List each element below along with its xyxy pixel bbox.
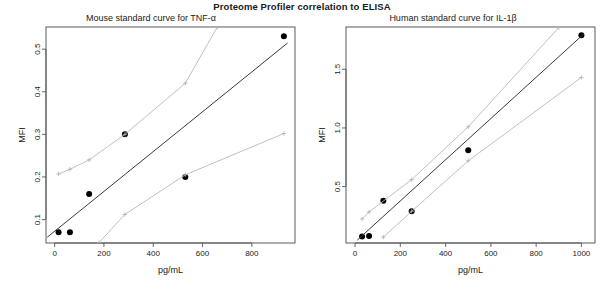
x-tick-label: 0 [353,249,358,258]
series-line-regression-fit [47,43,287,237]
data-point [67,229,73,235]
data-point [465,147,471,153]
y-axis-title: MFI [317,127,327,143]
figure-container: Proteome Profiler correlation to ELISA M… [0,0,604,293]
panel-human-il-1beta: Human standard curve for IL-1β 020040060… [302,0,604,293]
x-axis-title: pg/mL [458,265,483,275]
panel-mouse-tnf-alpha: Mouse standard curve for TNF-α 020040060… [0,0,302,293]
x-tick-label: 200 [394,249,408,258]
y-tick-label: 0.1 [34,213,43,225]
data-point [86,191,92,197]
x-tick-label: 0 [52,249,57,258]
y-tick-label: 0.5 [34,43,43,55]
plot-frame [46,27,295,243]
x-tick-label: 800 [245,249,259,258]
x-tick-label: 600 [196,249,210,258]
plot-area-human: 020040060080010000.51.01.5pg/mLMFI [302,0,604,293]
x-tick-label: 400 [439,249,453,258]
series-line-upper-band [59,27,218,174]
x-tick-label: 600 [484,249,498,258]
plot-frame [346,27,595,243]
x-tick-label: 1000 [573,249,591,258]
series-group [47,25,287,245]
y-tick-label: 0.2 [34,171,43,183]
series-line-lower-band [99,134,284,243]
x-axis-title: pg/mL [158,265,183,275]
plot-area-mouse: 02004006008000.10.20.30.40.5pg/mLMFI [0,0,302,293]
y-tick-label: 0.3 [34,128,43,140]
data-point [281,33,287,39]
series-group [357,25,584,240]
y-tick-label: 0.4 [34,86,43,98]
x-tick-label: 800 [529,249,543,258]
data-point [578,32,584,38]
y-tick-label: 1.5 [334,63,343,75]
y-tick-label: 0.5 [334,181,343,193]
series-line-upper-band [362,28,559,219]
y-axis-title: MFI [17,127,27,143]
series-line-regression-fit [357,34,583,240]
x-tick-label: 400 [147,249,161,258]
y-tick-label: 1.0 [334,122,343,134]
x-tick-label: 200 [97,249,111,258]
data-point [366,233,372,239]
